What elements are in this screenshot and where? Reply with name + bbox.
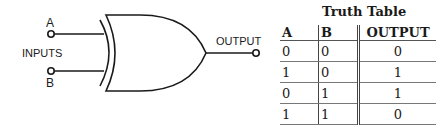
input-a-terminal <box>48 31 54 37</box>
table-row: 1 0 1 <box>280 62 436 83</box>
cell-b: 0 <box>319 62 359 83</box>
cell-a: 1 <box>280 104 319 125</box>
cell-a: 0 <box>280 83 319 104</box>
cell-a: 1 <box>280 62 319 83</box>
header-b: B <box>319 25 359 41</box>
truth-table: A B OUTPUT 0 0 0 1 0 1 0 1 1 1 1 0 <box>280 25 436 125</box>
header-output: OUTPUT <box>359 25 437 41</box>
table-row: 0 1 1 <box>280 83 436 104</box>
table-row: 0 0 0 <box>280 41 436 62</box>
input-a-label: A <box>46 17 54 29</box>
cell-output: 1 <box>359 62 437 83</box>
cell-b: 1 <box>319 83 359 104</box>
input-b-label: B <box>46 77 54 89</box>
cell-a: 0 <box>280 41 319 62</box>
output-terminal <box>253 50 259 56</box>
xor-gate-diagram <box>0 0 280 132</box>
input-b-terminal <box>48 68 54 74</box>
cell-b: 1 <box>319 104 359 125</box>
truth-table-title: Truth Table <box>322 4 446 19</box>
cell-output: 1 <box>359 83 437 104</box>
header-a: A <box>280 25 319 41</box>
gate-body <box>106 15 206 91</box>
table-row: 1 1 0 <box>280 104 436 125</box>
table-header-row: A B OUTPUT <box>280 25 436 41</box>
inputs-label: INPUTS <box>22 48 62 59</box>
output-label: OUTPUT <box>216 36 261 47</box>
xor-input-curve <box>100 20 109 86</box>
cell-output: 0 <box>359 41 437 62</box>
cell-b: 0 <box>319 41 359 62</box>
cell-output: 0 <box>359 104 437 125</box>
